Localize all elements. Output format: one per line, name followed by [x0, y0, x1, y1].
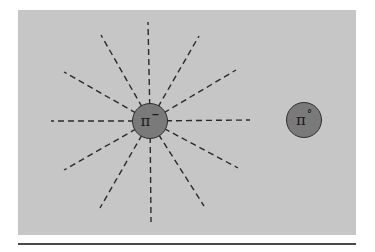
- pi-zero-charge: °: [307, 109, 312, 119]
- pi-minus-charge: −: [151, 110, 159, 120]
- pi-minus-particle: π−: [132, 103, 168, 139]
- pi-minus-symbol: π: [140, 114, 150, 129]
- field-line-up-right-steep: [158, 36, 199, 107]
- field-line-down: [150, 137, 151, 222]
- bottom-rule: [18, 243, 356, 245]
- field-line-down-right-shallow: [164, 129, 238, 169]
- field-line-up: [148, 22, 150, 105]
- pi-zero-symbol: π: [296, 113, 306, 128]
- field-line-up-right-shallow: [164, 70, 236, 113]
- field-line-right: [166, 120, 250, 121]
- field-line-down-right-steep: [159, 135, 204, 207]
- pi-zero-particle: π°: [286, 102, 322, 138]
